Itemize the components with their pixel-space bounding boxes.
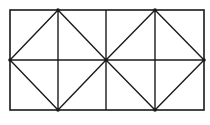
vertex-dot <box>56 108 60 112</box>
grid-diamond-figure <box>0 0 210 125</box>
vertex-dot <box>8 58 12 62</box>
vertex-dot <box>56 8 60 12</box>
vertex-dot <box>104 58 108 62</box>
diagram-container <box>0 0 210 125</box>
vertex-dot <box>153 108 157 112</box>
vertex-dot <box>202 58 206 62</box>
vertex-dot <box>153 8 157 12</box>
